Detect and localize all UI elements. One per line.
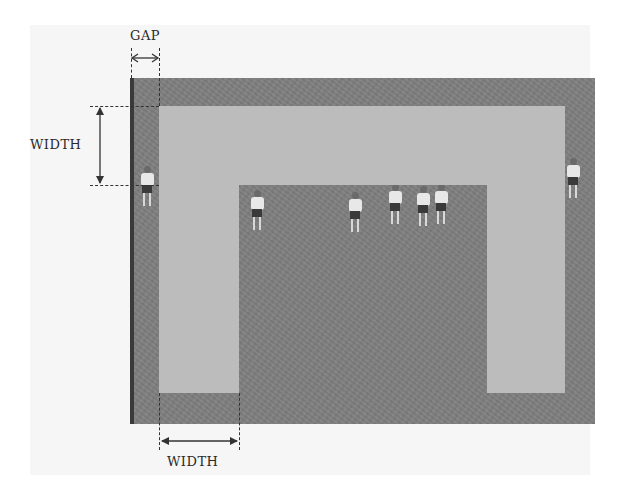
player-figure: [388, 184, 402, 224]
player-figure: [348, 192, 362, 232]
mask-left-leg: [159, 185, 239, 393]
player-figure: [434, 184, 448, 224]
player-figure: [416, 186, 430, 226]
width-horizontal-label: WIDTH: [167, 454, 218, 469]
player-figure: [140, 166, 154, 206]
width-vertical-arrow-icon: [95, 106, 105, 185]
width-guide-right: [239, 393, 240, 450]
width-horizontal-arrow-icon: [160, 436, 239, 446]
gap-label: GAP: [130, 28, 160, 43]
gap-guide-right: [159, 48, 160, 106]
mask-right-leg: [487, 185, 565, 393]
player-figure: [250, 190, 264, 230]
width-vertical-label: WIDTH: [30, 137, 81, 152]
mask-top-bar: [159, 106, 565, 185]
width-guide-bottom: [90, 185, 159, 186]
player-figure: [566, 158, 580, 198]
gap-arrow-icon: [131, 53, 159, 63]
